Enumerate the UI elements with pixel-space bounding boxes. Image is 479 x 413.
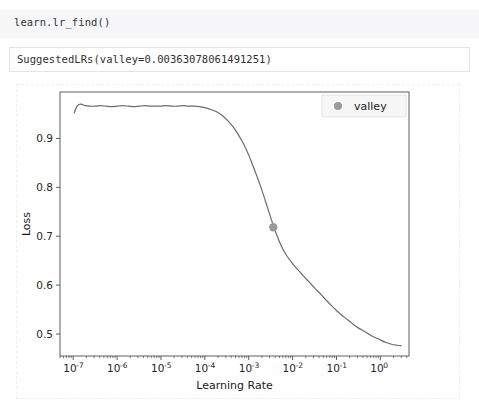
x-tick-exponent: -3 <box>252 361 260 370</box>
legend-valley-label: valley <box>354 100 387 113</box>
code-cell-source: learn.lr_find() <box>14 16 110 28</box>
y-tick-label: 0.6 <box>36 279 53 291</box>
x-tick-label: 10 <box>195 362 208 374</box>
x-tick-exponent: -1 <box>339 361 347 370</box>
x-tick-exponent: 0 <box>383 361 388 370</box>
x-tick-label: 10 <box>151 362 164 374</box>
y-tick-label: 0.8 <box>36 181 53 193</box>
suggested-lrs-output: SuggestedLRs(valley=0.00363078061491251) <box>17 53 272 65</box>
notebook-code-cell[interactable]: learn.lr_find() <box>0 10 479 38</box>
x-tick-label: 10 <box>326 362 339 374</box>
x-tick-exponent: -6 <box>120 361 128 370</box>
y-axis-title: Loss <box>20 212 33 236</box>
notebook-output-cell: SuggestedLRs(valley=0.00363078061491251) <box>9 47 470 72</box>
y-tick-label: 0.7 <box>36 230 53 242</box>
loss-curve <box>74 104 401 346</box>
x-tick-exponent: -5 <box>164 361 172 370</box>
x-axis-title: Learning Rate <box>196 379 273 392</box>
valley-marker <box>269 223 277 231</box>
lr-find-plot: 10-710-610-510-410-310-210-11000.90.80.7… <box>17 85 459 398</box>
x-tick-label: 10 <box>239 362 252 374</box>
plot-box <box>60 92 409 356</box>
x-tick-exponent: -2 <box>296 361 304 370</box>
x-tick-label: 10 <box>283 362 296 374</box>
x-tick-label: 10 <box>107 362 120 374</box>
y-tick-label: 0.5 <box>36 328 53 340</box>
x-tick-label: 10 <box>63 362 76 374</box>
legend-valley-marker-icon <box>334 102 342 110</box>
x-tick-exponent: -4 <box>208 361 216 370</box>
x-tick-label: 10 <box>370 362 383 374</box>
lr-find-figure: 10-710-610-510-410-310-210-11000.90.80.7… <box>16 84 460 399</box>
y-tick-label: 0.9 <box>36 132 53 144</box>
x-tick-exponent: -7 <box>76 361 84 370</box>
